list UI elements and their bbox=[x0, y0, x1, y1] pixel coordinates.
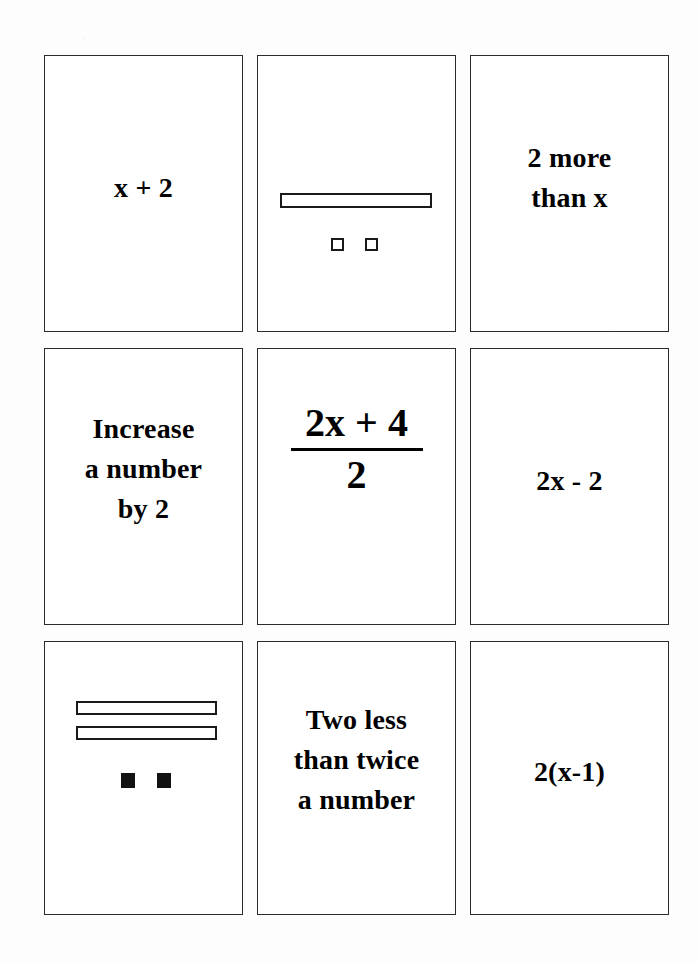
card-expression-text: 2x - 2 bbox=[536, 461, 603, 501]
card-expression-text: 2(x-1) bbox=[534, 752, 605, 792]
card-tiles-2x-minus-2[interactable] bbox=[44, 641, 243, 915]
card-phrase-text: 2 more than x bbox=[528, 138, 612, 218]
card-2-more-than-x[interactable]: 2 more than x bbox=[470, 55, 669, 332]
card-increase-a-number-by-2[interactable]: Increase a number by 2 bbox=[44, 348, 243, 625]
x-tile-bar-icon bbox=[76, 701, 217, 715]
fraction-bar bbox=[291, 448, 423, 451]
unit-tile-square-icon bbox=[365, 238, 378, 251]
algebra-tile-diagram bbox=[45, 642, 242, 914]
x-tile-bar-icon bbox=[280, 193, 432, 208]
card-two-less-than-twice-a-number[interactable]: Two less than twice a number bbox=[257, 641, 456, 915]
algebra-tile-diagram bbox=[258, 56, 455, 331]
card-tiles-x-plus-2[interactable] bbox=[257, 55, 456, 332]
card-2-times-x-minus-1[interactable]: 2(x-1) bbox=[470, 641, 669, 915]
negative-unit-tile-square-icon bbox=[121, 773, 135, 788]
card-x-plus-2[interactable]: x + 2 bbox=[44, 55, 243, 332]
card-phrase-text: Two less than twice a number bbox=[294, 700, 420, 820]
fraction-numerator: 2x + 4 bbox=[305, 401, 408, 445]
card-grid: x + 2 2 more than x Increase a number by… bbox=[44, 55, 669, 914]
worksheet-page: x + 2 2 more than x Increase a number by… bbox=[0, 0, 699, 962]
card-phrase-text: Increase a number by 2 bbox=[85, 409, 203, 529]
negative-unit-tile-square-icon bbox=[157, 773, 171, 788]
fraction: 2x + 4 2 bbox=[291, 401, 423, 497]
card-expression-text: x + 2 bbox=[114, 168, 173, 208]
card-fraction-2x-plus-4-over-2[interactable]: 2x + 4 2 bbox=[257, 348, 456, 625]
card-2x-minus-2[interactable]: 2x - 2 bbox=[470, 348, 669, 625]
unit-tile-square-icon bbox=[331, 238, 344, 251]
x-tile-bar-icon bbox=[76, 726, 217, 740]
fraction-denominator: 2 bbox=[347, 453, 367, 497]
